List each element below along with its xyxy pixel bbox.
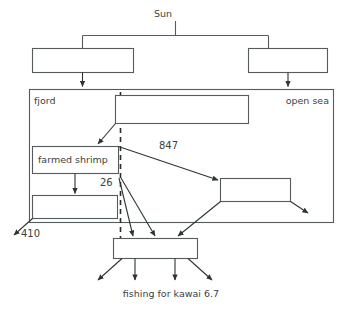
diagram-caption: fishing for kawai 6.7	[123, 288, 219, 299]
flow-label-847: 847	[159, 140, 178, 151]
diagram-canvas: Sun fjord open sea farmed shrimp 847 26 …	[0, 0, 351, 317]
arrow-upperbox-to-shrimp	[98, 124, 116, 145]
fjord-label: fjord	[34, 95, 56, 106]
arrow-shrimp-to-rightmiddle	[119, 147, 219, 181]
top-right-box[interactable]	[249, 49, 328, 73]
arrow-bottom-out-4	[188, 259, 212, 281]
sun-label: Sun	[154, 8, 172, 19]
bottom-box[interactable]	[114, 239, 198, 259]
sun-connector-group	[83, 21, 269, 48]
lower-left-box[interactable]	[33, 196, 118, 219]
flow-diagram: Sun fjord open sea farmed shrimp 847 26 …	[0, 0, 351, 317]
farmed-shrimp-label: farmed shrimp	[38, 154, 108, 165]
open-sea-label: open sea	[286, 95, 329, 106]
arrow-rightmiddle-export	[291, 202, 309, 214]
upper-wide-box[interactable]	[116, 96, 249, 124]
flow-label-26: 26	[100, 177, 113, 188]
top-left-box[interactable]	[33, 49, 134, 73]
arrow-rightmiddle-to-bottom	[178, 202, 221, 237]
flow-label-410: 410	[21, 228, 40, 239]
right-middle-box[interactable]	[221, 179, 291, 202]
arrow-bottom-out-1	[98, 259, 122, 281]
